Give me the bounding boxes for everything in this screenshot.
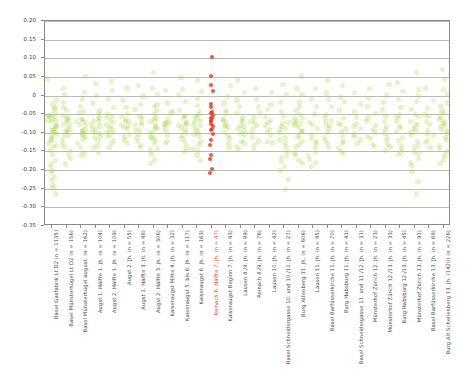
x-axis-label: Basel Barfüsserkirche 11. Jh. (n = 70) bbox=[329, 230, 335, 331]
data-point bbox=[125, 111, 130, 116]
data-point bbox=[150, 86, 155, 91]
data-point bbox=[181, 115, 186, 120]
data-point bbox=[300, 115, 305, 120]
data-point bbox=[183, 99, 188, 104]
data-point bbox=[352, 90, 357, 95]
data-point bbox=[235, 126, 240, 131]
data-point bbox=[241, 124, 246, 129]
x-axis-label: Kaiseraugst 6. Jh. (n = 163) bbox=[198, 230, 204, 305]
data-point bbox=[62, 92, 67, 97]
data-point bbox=[351, 124, 356, 129]
data-point-highlight bbox=[211, 89, 215, 93]
data-point bbox=[394, 129, 399, 134]
data-point bbox=[326, 97, 331, 102]
data-point bbox=[365, 104, 370, 109]
data-point bbox=[310, 122, 315, 127]
y-tick-label: -0.15 bbox=[22, 147, 36, 153]
data-point bbox=[92, 130, 97, 135]
x-tick-mark bbox=[283, 225, 284, 228]
data-point bbox=[184, 120, 189, 125]
x-axis-label: Münsterhof Zürich 12. Jh. (n = 23) bbox=[372, 230, 378, 322]
y-tick-label: 0.05 bbox=[24, 73, 36, 79]
data-point bbox=[153, 138, 158, 143]
data-point bbox=[341, 116, 346, 121]
data-point bbox=[109, 79, 114, 84]
data-point bbox=[165, 100, 170, 105]
data-point bbox=[180, 87, 185, 92]
data-point bbox=[414, 191, 419, 196]
data-point bbox=[149, 151, 154, 156]
data-point bbox=[278, 100, 283, 105]
data-point bbox=[314, 104, 319, 109]
data-point bbox=[225, 94, 230, 99]
data-point bbox=[358, 101, 363, 106]
data-point bbox=[444, 137, 449, 142]
data-point bbox=[138, 145, 143, 150]
data-point bbox=[352, 109, 357, 114]
x-tick-mark bbox=[312, 225, 313, 228]
y-tick-label: -0.35 bbox=[22, 222, 36, 228]
data-point bbox=[125, 141, 130, 146]
data-point bbox=[277, 168, 282, 173]
data-point bbox=[196, 142, 201, 147]
data-point bbox=[442, 77, 447, 82]
gridline bbox=[45, 77, 449, 78]
data-point bbox=[163, 121, 168, 126]
data-point bbox=[198, 123, 203, 128]
data-point bbox=[133, 127, 138, 132]
x-axis-label: Kaiseraugst Beginn 7. Jh. (n = 43) bbox=[227, 230, 233, 322]
data-point bbox=[440, 67, 445, 72]
data-point bbox=[423, 85, 428, 90]
y-tick-label: -0.20 bbox=[22, 166, 36, 172]
data-point bbox=[437, 146, 442, 151]
data-point bbox=[427, 122, 432, 127]
data-point bbox=[96, 150, 101, 155]
data-point bbox=[416, 156, 421, 161]
data-point bbox=[278, 127, 283, 132]
x-tick-mark bbox=[356, 225, 357, 228]
x-tick-mark bbox=[298, 225, 299, 228]
data-point bbox=[325, 78, 330, 83]
data-point bbox=[354, 141, 359, 146]
gridline bbox=[45, 151, 449, 152]
data-point bbox=[307, 157, 312, 162]
data-point bbox=[439, 127, 444, 132]
x-tick-mark bbox=[196, 225, 197, 228]
data-point bbox=[294, 86, 299, 91]
x-axis-label: Basel Gasfabrik Lt D2 (n = 1135) bbox=[53, 230, 59, 319]
data-point bbox=[45, 76, 50, 81]
data-point bbox=[83, 74, 88, 79]
data-point bbox=[148, 119, 153, 124]
data-point-highlight bbox=[209, 138, 213, 142]
x-axis-label: Basel Schneidergasse 11. und 11./12. Jh.… bbox=[358, 230, 364, 364]
data-point bbox=[400, 89, 405, 94]
x-axis-label: Burg Habsburg 12./13. Jh. (n = 45) bbox=[401, 230, 407, 323]
data-point bbox=[313, 86, 318, 91]
data-point bbox=[198, 158, 203, 163]
data-point bbox=[132, 107, 137, 112]
data-point bbox=[90, 100, 95, 105]
data-point bbox=[148, 161, 153, 166]
data-point bbox=[139, 122, 144, 127]
data-point bbox=[396, 152, 401, 157]
x-tick-mark bbox=[182, 225, 183, 228]
data-point bbox=[198, 118, 203, 123]
x-axis-label: Augst 2. Hälfte 3. Jh. (n = 306) bbox=[155, 230, 161, 313]
data-point-highlight bbox=[208, 171, 212, 175]
data-point bbox=[438, 115, 443, 120]
data-point bbox=[325, 129, 330, 134]
x-axis-label: Lausen 8./9. Jh. (n = 89) bbox=[242, 230, 248, 296]
gridline bbox=[45, 21, 449, 22]
y-tick-label: -0.05 bbox=[22, 110, 36, 116]
data-point bbox=[242, 132, 247, 137]
x-tick-mark bbox=[138, 225, 139, 228]
data-point bbox=[337, 107, 342, 112]
data-point bbox=[79, 152, 84, 157]
data-point bbox=[268, 102, 273, 107]
data-point bbox=[53, 191, 58, 196]
gridline bbox=[45, 170, 449, 171]
data-point bbox=[425, 106, 430, 111]
x-axis-label: Münsterhof Zürich 13. Jh. (n = 91) bbox=[416, 230, 422, 322]
data-point bbox=[253, 86, 258, 91]
x-tick-mark bbox=[399, 225, 400, 228]
